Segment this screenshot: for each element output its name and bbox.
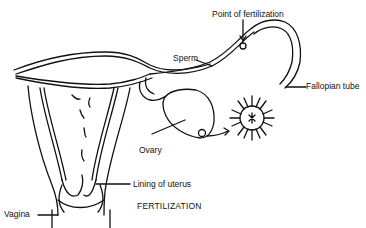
label-vagina: Vagina <box>4 210 30 219</box>
cervix <box>58 200 104 208</box>
label-fallopian-tube: Fallopian tube <box>306 82 359 91</box>
label-ovary: Ovary <box>139 146 162 155</box>
label-point-of-fertilization: Point of fertilization <box>212 10 284 19</box>
fimbriae <box>230 96 274 140</box>
label-sperm: Sperm <box>173 54 198 63</box>
uterus-right-wall <box>104 88 130 215</box>
ovary <box>163 89 214 138</box>
fertilization-diagram <box>0 0 366 228</box>
label-lining-of-uterus: Lining of uterus <box>133 180 191 189</box>
diagram-title: FERTILIZATION <box>137 202 202 211</box>
